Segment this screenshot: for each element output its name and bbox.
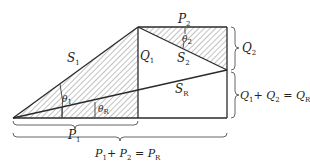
label-p-sum: P1+ P2 = PR	[94, 147, 161, 162]
label-p1: P1	[67, 128, 81, 144]
label-sr: SR	[175, 82, 189, 98]
pr-brace	[13, 133, 227, 141]
label-q2: Q2	[242, 41, 256, 57]
label-s1: S1	[67, 51, 80, 67]
q2-brace	[231, 27, 239, 70]
qr-brace	[231, 72, 239, 118]
label-q-sum: Q1+ Q2 = QR	[240, 89, 310, 104]
label-s2: S2	[177, 51, 190, 67]
label-q1: Q1	[140, 49, 154, 65]
power-triangle-diagram: S1 Q1 P2 θ2 S2 SR θ1 θR P1 Q2 Q1+ Q2 = Q…	[0, 0, 310, 165]
label-p2: P2	[177, 12, 191, 28]
